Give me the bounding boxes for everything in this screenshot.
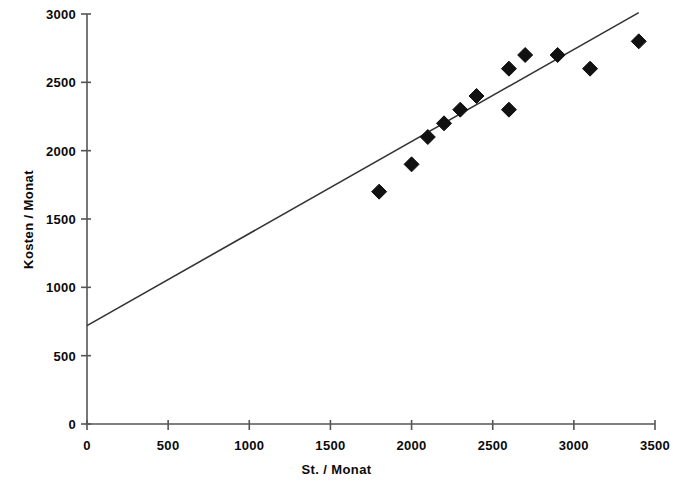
- data-point-marker: [631, 34, 646, 49]
- data-point-marker: [501, 102, 516, 117]
- data-point-marker: [404, 157, 419, 172]
- data-point-marker: [437, 116, 452, 131]
- data-point-marker: [583, 61, 598, 76]
- x-tick-label: 1000: [234, 438, 264, 453]
- data-point-marker: [453, 102, 468, 117]
- data-point-marker: [372, 184, 387, 199]
- y-axis-title: Kosten / Monat: [21, 130, 36, 310]
- data-points: [372, 34, 647, 199]
- y-tick-label: 500: [20, 348, 76, 363]
- x-tick-label: 2000: [397, 438, 427, 453]
- y-tick-label: 2500: [20, 75, 76, 90]
- axes: [81, 14, 655, 430]
- x-tick-label: 500: [157, 438, 180, 453]
- y-tick-label: 0: [20, 417, 76, 432]
- scatter-chart: 0500100015002000250030000500100015002000…: [0, 0, 673, 490]
- data-point-marker: [501, 61, 516, 76]
- x-axis-title: St. / Monat: [0, 462, 673, 477]
- data-point-marker: [550, 48, 565, 63]
- x-tick-label: 1500: [315, 438, 345, 453]
- plot-area: [0, 0, 673, 490]
- x-tick-label: 3000: [559, 438, 589, 453]
- y-tick-label: 3000: [20, 7, 76, 22]
- x-tick-label: 0: [83, 438, 91, 453]
- data-point-marker: [420, 130, 435, 145]
- data-point-marker: [518, 48, 533, 63]
- x-tick-label: 3500: [640, 438, 670, 453]
- x-tick-label: 2500: [478, 438, 508, 453]
